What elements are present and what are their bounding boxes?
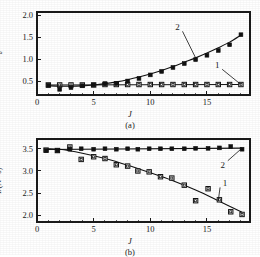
data-point-marker (136, 169, 140, 173)
series-curve (46, 148, 242, 149)
data-point-marker (216, 49, 220, 53)
data-point-marker (147, 170, 151, 174)
data-point-marker (69, 86, 73, 90)
data-point-marker (159, 82, 163, 86)
x-axis-label-b: J (0, 236, 260, 246)
x-tick-label: 15 (203, 97, 212, 107)
data-point-marker (159, 147, 163, 151)
data-point-marker (182, 147, 186, 151)
data-point-marker (206, 146, 210, 150)
data-point-marker (91, 155, 95, 159)
data-point-marker (92, 147, 96, 151)
data-point-marker (44, 149, 48, 153)
x-tick-label: 5 (92, 97, 96, 107)
data-point-marker (171, 66, 175, 70)
data-point-marker (148, 73, 152, 77)
data-point-marker (103, 82, 107, 86)
series-annotation-label: 2 (221, 160, 226, 170)
data-point-marker (229, 210, 233, 214)
y-tick-label: 2.0 (22, 210, 33, 220)
y-axis-label-b: I/(N · s) (0, 168, 3, 194)
data-point-marker (103, 156, 107, 160)
data-point-marker (182, 82, 186, 86)
data-point-marker (92, 83, 96, 87)
data-point-marker (227, 82, 231, 86)
x-tick-label: 10 (146, 97, 155, 107)
series-annotation-label: 1 (215, 60, 220, 70)
x-tick-label: 10 (146, 224, 155, 234)
data-point-marker (158, 175, 162, 179)
y-tick-label: 0.5 (22, 76, 33, 86)
data-point-marker (126, 147, 130, 151)
data-point-marker (79, 157, 83, 161)
data-point-marker (193, 198, 197, 202)
data-point-marker (171, 82, 175, 86)
data-point-marker (194, 58, 198, 62)
data-point-marker (217, 198, 221, 202)
data-point-marker (103, 147, 107, 151)
data-point-marker (58, 87, 62, 91)
data-point-marker (148, 82, 152, 86)
data-point-marker (194, 146, 198, 150)
data-point-marker (240, 212, 244, 216)
data-point-marker (125, 164, 129, 168)
data-point-marker (182, 62, 186, 66)
x-tick-label: 5 (92, 224, 96, 234)
chart-panel-b: 0510152.02.53.03.512 I/(N · s) J (b) (0, 128, 260, 255)
y-axis-label-symbol: t (0, 54, 1, 56)
series-leader-line (228, 148, 242, 161)
data-point-marker (205, 53, 209, 57)
series-curve (48, 35, 241, 86)
data-point-marker (79, 147, 83, 151)
y-tick-label: 1.5 (22, 32, 33, 42)
data-point-marker (55, 149, 59, 153)
data-point-marker (228, 43, 232, 47)
data-point-marker (126, 79, 130, 83)
data-point-marker (218, 146, 222, 150)
data-point-marker (193, 82, 197, 86)
data-point-marker (80, 84, 84, 88)
data-point-marker (46, 83, 50, 87)
series-annotation-label: 2 (175, 22, 180, 32)
x-tick-label: 15 (203, 224, 212, 234)
data-point-marker (68, 147, 72, 151)
y-tick-label: 3.5 (22, 144, 33, 154)
chart-panel-a: 0510150.51.01.52.012 td/s J (a) (0, 0, 260, 127)
data-point-marker (182, 183, 186, 187)
data-point-marker (114, 81, 118, 85)
data-point-marker (170, 176, 174, 180)
data-point-marker (216, 82, 220, 86)
data-point-marker (114, 147, 118, 151)
data-point-marker (206, 187, 210, 191)
data-point-marker (114, 163, 118, 167)
y-tick-label: 2.5 (22, 188, 33, 198)
y-tick-label: 2.0 (22, 10, 33, 20)
y-axis-label-a: td/s (0, 46, 3, 57)
data-point-marker (170, 147, 174, 151)
data-point-marker (160, 70, 164, 74)
plot-area-a: 0510150.51.01.52.012 (0, 0, 260, 127)
x-axis-label-a: J (0, 109, 260, 119)
panel-caption-b: (b) (0, 247, 260, 257)
series-curve (46, 149, 242, 212)
data-point-marker (137, 82, 141, 86)
series-annotation-label: 1 (223, 178, 228, 188)
y-tick-label: 1.0 (22, 54, 33, 64)
y-axis-label-symbol: I (0, 191, 3, 194)
data-point-marker (229, 145, 233, 149)
data-point-marker (205, 82, 209, 86)
x-tick-label: 0 (35, 97, 39, 107)
data-point-marker (137, 77, 141, 81)
data-point-marker (239, 33, 243, 37)
data-point-marker (136, 147, 140, 151)
x-tick-label: 0 (35, 224, 39, 234)
data-point-marker (147, 147, 151, 151)
series-leader-line (182, 31, 195, 58)
y-tick-label: 3.0 (22, 166, 33, 176)
